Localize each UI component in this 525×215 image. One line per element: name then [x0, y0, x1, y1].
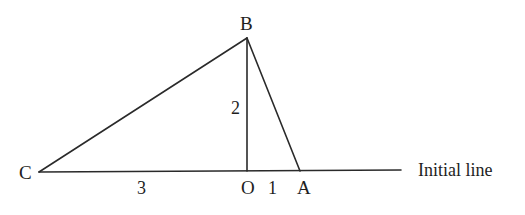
- vertex-label-b: B: [240, 13, 253, 34]
- length-label-oa: 1: [268, 178, 277, 198]
- vertex-label-c: C: [19, 162, 32, 183]
- triangle-diagram: B C O A 2 3 1 Initial line: [0, 0, 525, 215]
- initial-line-label: Initial line: [418, 160, 492, 180]
- segment-cb: [39, 38, 247, 172]
- segment-ba: [247, 38, 300, 171]
- vertex-label-o: O: [241, 177, 255, 198]
- vertex-label-a: A: [297, 177, 311, 198]
- length-label-co: 3: [137, 178, 146, 198]
- initial-line: [39, 170, 401, 172]
- length-label-ob: 2: [231, 98, 240, 118]
